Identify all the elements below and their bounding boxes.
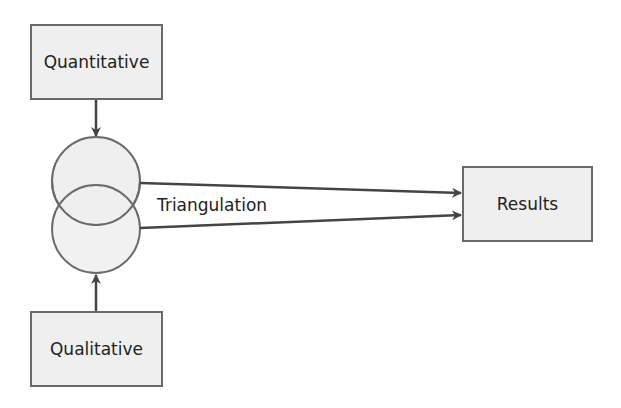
results-label: Results [497, 194, 558, 214]
quantitative-box: Quantitative [30, 24, 163, 100]
arrow-bottom-to-results [140, 215, 461, 228]
qualitative-box: Qualitative [30, 311, 163, 387]
arrow-top-to-results [140, 183, 461, 193]
quantitative-label: Quantitative [44, 52, 150, 72]
triangulation-label: Triangulation [157, 195, 267, 215]
qualitative-circle [52, 185, 140, 273]
qualitative-label: Qualitative [50, 339, 143, 359]
results-box: Results [462, 166, 593, 242]
